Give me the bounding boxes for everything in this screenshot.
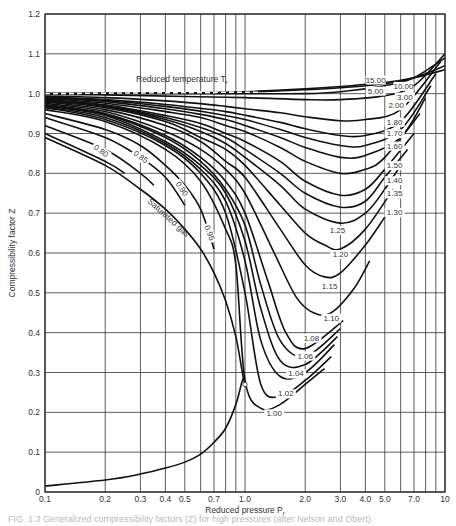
curve-labels: 15.0010.005.003.002.001.801.701.601.501.… [90,76,415,419]
compressibility-chart: 00.10.20.30.40.50.60.70.80.91.01.11.20.1… [0,0,456,526]
x-tick-label: 0.5 [179,494,191,504]
x-tick-label: 0.4 [159,494,171,504]
x-tick-label: 7.0 [408,494,420,504]
tr-curve-label: 1.80 [387,118,403,127]
y-tick-label: 0.5 [28,288,40,298]
tr-curve-label: 2.00 [388,101,404,110]
tr-curve-label: 1.10 [323,314,339,323]
x-tick-label: 5.0 [379,494,391,504]
tr-curve-label: 1.08 [304,334,320,343]
tr-curve-label: 1.00 [266,409,282,418]
tr-curve-label: 1.50 [387,161,403,170]
tr-curve-label: 1.04 [288,369,304,378]
tr-curve-label: 1.30 [387,208,403,217]
x-tick-label: 0.7 [208,494,220,504]
tr-curve-label: 1.02 [278,389,294,398]
x-tick-label: 1.0 [239,494,251,504]
y-tick-label: 1.2 [28,9,40,19]
tr-curve-label: 5.00 [368,87,384,96]
y-tick-label: 1.0 [28,89,40,99]
y-axis-title: Compressibility factor Z [7,209,17,298]
tr-curve-label: 1.35 [387,189,403,198]
y-tick-label: 0.7 [28,208,40,218]
tr-curve-label: 1.70 [387,129,403,138]
tr-curve-label: 1.06 [297,352,313,361]
y-tick-label: 1.1 [28,49,40,59]
y-tick-label: 0.3 [28,368,40,378]
y-tick-label: 0.4 [28,328,40,338]
y-tick-label: 0.8 [28,168,40,178]
tr-curve-label: 10.00 [393,82,414,91]
x-tick-label: 0.3 [135,494,147,504]
x-tick-label: 2.0 [299,494,311,504]
x-tick-label: 3.0 [335,494,347,504]
y-tick-label: 0.2 [28,407,40,417]
tr-curve-label: 1.60 [387,142,403,151]
y-tick-label: 0.9 [28,129,40,139]
x-tick-label: 10 [440,494,450,504]
y-tick-label: 0.6 [28,248,40,258]
x-tick-label: 0.2 [99,494,111,504]
x-tick-label: 0.1 [39,494,51,504]
tr-curve-label: 15.00 [366,76,387,85]
critical-point-marker [243,382,247,386]
tr-curve-label: 1.20 [333,250,349,259]
tr-curve-label: 1.15 [322,282,338,291]
x-tick-label: 4.0 [359,494,371,504]
tr-curve-label: 1.40 [387,176,403,185]
tr-curve-label: 3.00 [397,93,413,102]
tr-header: Reduced temperature Tr [136,74,228,85]
curve-tr-saturated-gas [45,376,245,486]
figure-caption: FIG. 1.3 Generalized compressibility fac… [8,514,448,524]
y-tick-label: 0.1 [28,447,40,457]
curve-tr-1.04 [45,107,334,379]
tr-curve-label: 1.25 [330,226,346,235]
